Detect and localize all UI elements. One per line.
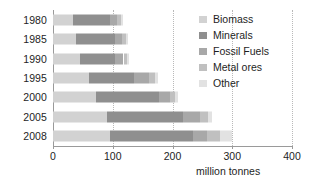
- legend-item-biomass[interactable]: Biomass: [199, 11, 323, 27]
- y-axis-tick-label: 1980: [0, 14, 47, 25]
- bar-row: 2005: [0, 107, 326, 126]
- legend-label: Other: [213, 77, 239, 89]
- bar-segment-biomass: [53, 14, 73, 25]
- bar-stack: [53, 111, 292, 122]
- bar-segment-metal-ores: [200, 111, 208, 122]
- bar-segment-minerals: [110, 131, 194, 142]
- bar-segment-other: [126, 34, 128, 45]
- bar-stack: [53, 92, 292, 103]
- y-axis-tick-label: 1990: [0, 53, 47, 64]
- legend-swatch-icon: [199, 64, 207, 71]
- legend-swatch-icon: [199, 48, 207, 55]
- bar-segment-fossil-fuels: [183, 111, 200, 122]
- bar-segment-biomass: [53, 34, 76, 45]
- bar-segment-fossil-fuels: [110, 14, 117, 25]
- stacked-bar-chart: 1980198519901995200020052008 01002003004…: [0, 0, 326, 185]
- bar-segment-minerals: [89, 72, 134, 83]
- bar-segment-other: [208, 111, 212, 122]
- bar-segment-biomass: [53, 72, 89, 83]
- bar-segment-biomass: [53, 53, 80, 64]
- y-axis-tick-label: 1995: [0, 72, 47, 83]
- x-axis-title: million tonnes: [196, 165, 260, 177]
- legend-item-metal-ores[interactable]: Metal ores: [199, 59, 323, 75]
- bar-segment-other: [155, 72, 158, 83]
- bar-segment-minerals: [80, 53, 115, 64]
- legend: BiomassMineralsFossil FuelsMetal oresOth…: [199, 11, 323, 91]
- bar-segment-fossil-fuels: [159, 92, 170, 103]
- bar-segment-other: [121, 14, 123, 25]
- tick-mark: [113, 146, 114, 149]
- bar-segment-fossil-fuels: [134, 72, 149, 83]
- bar-segment-minerals: [73, 14, 110, 25]
- bar-segment-biomass: [53, 92, 96, 103]
- x-axis-ticks: 0100200300400: [0, 146, 326, 162]
- tick-mark: [173, 146, 174, 149]
- bar-segment-minerals: [76, 34, 115, 45]
- x-axis-tick-label: 300: [223, 150, 241, 162]
- legend-label: Fossil Fuels: [213, 45, 269, 57]
- y-axis-tick-label: 2008: [0, 131, 47, 142]
- bar-segment-fossil-fuels: [193, 131, 206, 142]
- bar-segment-fossil-fuels: [115, 53, 123, 64]
- bar-segment-biomass: [53, 111, 107, 122]
- tick-mark: [292, 146, 293, 149]
- bar-segment-biomass: [53, 131, 110, 142]
- y-axis-tick-label: 1985: [0, 34, 47, 45]
- bar-segment-other: [220, 131, 233, 142]
- bar-segment-other: [175, 92, 178, 103]
- legend-swatch-icon: [199, 16, 207, 23]
- bar-segment-minerals: [107, 111, 183, 122]
- bar-segment-other: [127, 53, 129, 64]
- tick-mark: [232, 146, 233, 149]
- bar-segment-minerals: [96, 92, 159, 103]
- legend-swatch-icon: [199, 80, 207, 87]
- legend-swatch-icon: [199, 32, 207, 39]
- bar-stack: [53, 131, 292, 142]
- bar-row: 2008: [0, 127, 326, 146]
- y-axis-tick-label: 2005: [0, 111, 47, 122]
- legend-item-fossil-fuels[interactable]: Fossil Fuels: [199, 43, 323, 59]
- x-axis-tick-label: 200: [164, 150, 182, 162]
- legend-label: Metal ores: [213, 61, 262, 73]
- legend-item-minerals[interactable]: Minerals: [199, 27, 323, 43]
- x-axis-tick-label: 400: [283, 150, 301, 162]
- y-axis-tick-label: 2000: [0, 92, 47, 103]
- bar-segment-metal-ores: [207, 131, 220, 142]
- bar-segment-fossil-fuels: [115, 34, 122, 45]
- legend-item-other[interactable]: Other: [199, 75, 323, 91]
- tick-mark: [53, 146, 54, 149]
- x-axis-tick-label: 100: [104, 150, 122, 162]
- legend-label: Biomass: [213, 13, 253, 25]
- x-axis-tick-label: 0: [50, 150, 56, 162]
- legend-label: Minerals: [213, 29, 253, 41]
